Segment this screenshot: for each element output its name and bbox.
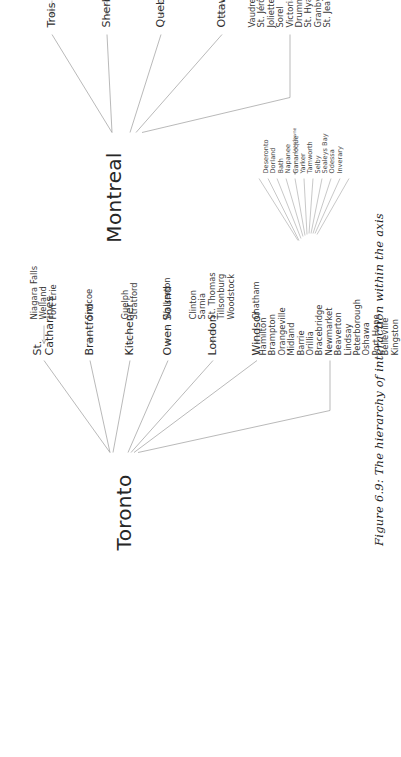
node-sherbrooke: Sherbrooke (101, 0, 113, 27)
node-group-kingston-children: DeserontoDorlandBathNapaneeGananoqueYark… (263, 133, 344, 173)
node-ottawa: Ottawa (216, 0, 228, 27)
node-group-st-catharines-children: Niagara FallsWellandFort Erie (30, 265, 58, 319)
node-trois-rivieres: Trois Rivieres (46, 0, 58, 27)
root-node-toronto: Toronto (113, 474, 135, 550)
node-group-london-children: ClintonSarniaSt. ThomasTillsonburgWoodst… (189, 272, 236, 319)
node-simcoe: Simcoe (85, 288, 94, 319)
figure-caption: Figure 6.9: The hierarchy of interaction… (372, 213, 386, 546)
node-walkerton: Walkerton (163, 277, 172, 319)
node-lansdowne: Lansdowne (292, 127, 297, 153)
node-london: London (207, 315, 219, 355)
node-group-montreal-leaves: VaudreuilSt. JérômeJolietteSorelVictoria… (248, 0, 333, 27)
root-node-montreal: Montreal (103, 152, 125, 242)
node-group-kitchener-children: GuelphStratford (121, 282, 140, 319)
node-quebec: Quebec (155, 0, 167, 27)
